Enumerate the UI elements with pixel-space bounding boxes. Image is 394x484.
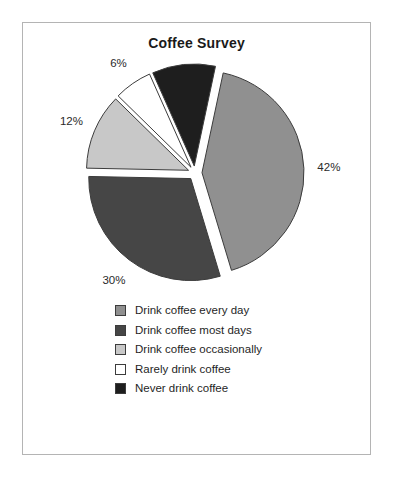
legend-item-label: Drink coffee every day: [135, 305, 249, 317]
pie-value-label: 6%: [110, 57, 127, 69]
chart-frame: Coffee Survey 42%30%12%6%10% Drink coffe…: [22, 22, 371, 455]
legend-item: Drink coffee most days: [115, 321, 325, 341]
pie-value-label: 12%: [60, 115, 83, 127]
pie-value-label: 42%: [317, 161, 340, 173]
legend-item: Never drink coffee: [115, 379, 325, 399]
legend-item: Rarely drink coffee: [115, 360, 325, 380]
pie-slice: [202, 73, 304, 270]
legend-item-label: Drink coffee occasionally: [135, 344, 262, 356]
legend-swatch: [115, 364, 126, 375]
pie-value-label: 30%: [102, 274, 125, 286]
legend-swatch: [115, 305, 126, 316]
legend-swatch: [115, 383, 126, 394]
pie-slice: [89, 176, 220, 280]
chart-page: Coffee Survey 42%30%12%6%10% Drink coffe…: [0, 0, 394, 484]
chart-legend: Drink coffee every dayDrink coffee most …: [115, 301, 325, 399]
pie-chart: 42%30%12%6%10%: [23, 53, 372, 303]
legend-item-label: Never drink coffee: [135, 383, 228, 395]
legend-swatch: [115, 325, 126, 336]
legend-item: Drink coffee every day: [115, 301, 325, 321]
legend-item: Drink coffee occasionally: [115, 340, 325, 360]
legend-item-label: Drink coffee most days: [135, 325, 252, 337]
legend-item-label: Rarely drink coffee: [135, 364, 231, 376]
page-title: Coffee Survey: [23, 35, 370, 51]
pie-chart-svg: 42%30%12%6%10%: [23, 53, 372, 303]
legend-swatch: [115, 344, 126, 355]
pie-slices: [87, 64, 304, 281]
